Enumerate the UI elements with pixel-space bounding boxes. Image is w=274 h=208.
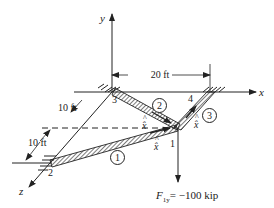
z-axis-label: z	[19, 186, 23, 197]
element-2-local-axis-label: x̂	[142, 121, 146, 131]
y-axis-label: y	[100, 13, 105, 24]
support-node-4	[203, 87, 225, 92]
element-1-local-axis-label: x̂	[154, 142, 158, 152]
space-truss-diagram: y x z 3 4 1 2 1 2 3 x̂ x̂ x̂ 20 ft 10 ft…	[0, 0, 274, 208]
node-1-label: 1	[170, 139, 175, 149]
load-subscript: 1y	[163, 196, 170, 204]
diagram-canvas	[0, 0, 274, 208]
element-1-label: 1	[110, 150, 125, 165]
element-2-label: 2	[152, 98, 167, 113]
node-3-label: 3	[112, 95, 117, 105]
element-3-label: 3	[202, 108, 217, 123]
element-3-local-axis-label: x̂	[194, 120, 198, 130]
load-label: F1y= −100 kip	[156, 190, 218, 204]
node-2-label: 2	[48, 168, 53, 178]
dimension-20ft-label: 20 ft	[149, 70, 172, 80]
node-4-label: 4	[188, 94, 193, 104]
load-symbol: F	[156, 189, 163, 201]
dimension-10ft-upper-label: 10 ft	[58, 103, 77, 113]
x-axis-label: x	[259, 87, 264, 98]
dimension-10ft-lower-label: 10 ft	[28, 138, 47, 148]
load-value: = −100 kip	[170, 189, 218, 201]
